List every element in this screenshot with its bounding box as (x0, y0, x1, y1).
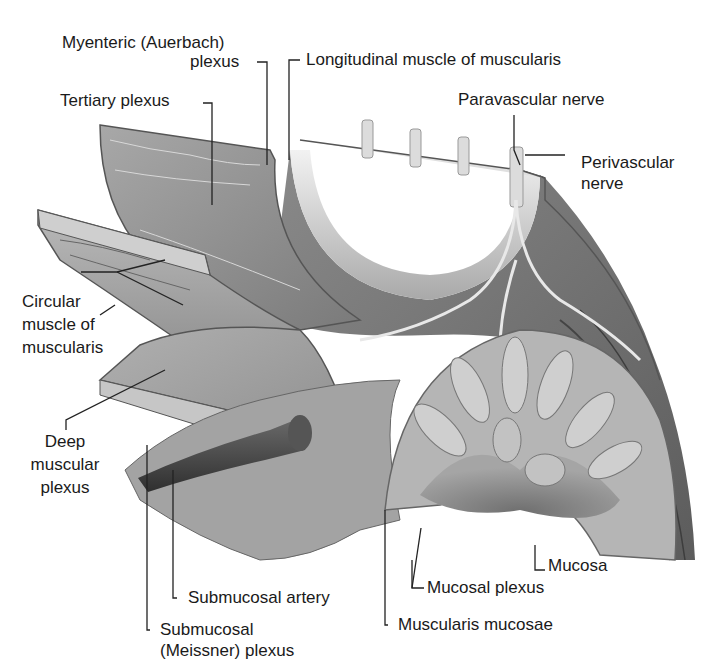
label-deep-muscular-plexus-line3: plexus (20, 478, 110, 498)
label-mucosa: Mucosa (548, 556, 608, 576)
label-submucosal-plexus-line2: (Meissner) plexus (160, 641, 294, 661)
label-mucosal-plexus: Mucosal plexus (427, 578, 544, 598)
vessel-stubs (362, 120, 523, 207)
label-circular-muscle-line1: Circular (22, 292, 81, 312)
label-submucosal-artery: Submucosal artery (188, 588, 330, 608)
label-perivascular-nerve-line2: nerve (581, 174, 624, 194)
label-perivascular-nerve-line1: Perivascular (581, 153, 675, 173)
label-longitudinal-muscle: Longitudinal muscle of muscularis (306, 50, 561, 70)
label-circular-muscle-line2: muscle of (22, 315, 95, 335)
label-deep-muscular-plexus-line2: muscular (20, 455, 110, 475)
label-tertiary-plexus: Tertiary plexus (60, 91, 170, 111)
label-submucosal-plexus-line1: Submucosal (160, 620, 254, 640)
label-circular-muscle-line3: muscularis (22, 338, 103, 358)
label-paravascular-nerve: Paravascular nerve (458, 90, 604, 110)
label-deep-muscular-plexus-line1: Deep (20, 432, 110, 452)
label-myenteric-plexus-line1: Myenteric (Auerbach) (62, 33, 225, 53)
label-muscularis-mucosae: Muscularis mucosae (398, 615, 553, 635)
label-myenteric-plexus-line2: plexus (190, 52, 239, 72)
